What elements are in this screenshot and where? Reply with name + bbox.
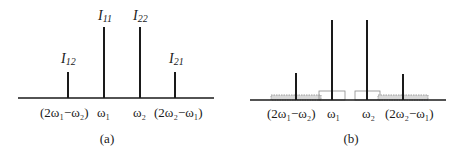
label-i12: I12 (60, 51, 76, 67)
spectrum-diagram: I12 I11 I22 I21 (2ω₁−ω₂) ω₁ ω₂ (2ω₂−ω₁) … (0, 0, 458, 158)
freq-w1-b: ω₁ (327, 106, 340, 121)
panel-b: (2ω₁−ω₂) ω₁ ω₂ (2ω₂−ω₁) (b) (250, 20, 446, 146)
label-i11: I11 (97, 8, 112, 24)
freq-w1-a: ω₁ (97, 105, 110, 120)
freq-w2-a: ω₂ (133, 105, 146, 120)
freq-2w1-w2-b: (2ω₁−ω₂) (267, 106, 316, 121)
panel-a: I12 I11 I22 I21 (2ω₁−ω₂) ω₁ ω₂ (2ω₂−ω₁) … (18, 8, 214, 146)
caption-a: (a) (100, 131, 114, 146)
freq-2w1-w2-a: (2ω₁−ω₂) (40, 105, 89, 120)
caption-b: (b) (343, 131, 358, 146)
freq-2w2-w1-a: (2ω₂−ω₁) (154, 105, 203, 120)
label-i21: I21 (168, 51, 184, 67)
label-i22: I22 (132, 8, 148, 24)
freq-w2-b: ω₂ (362, 106, 375, 121)
freq-2w2-w1-b: (2ω₂−ω₁) (385, 106, 434, 121)
